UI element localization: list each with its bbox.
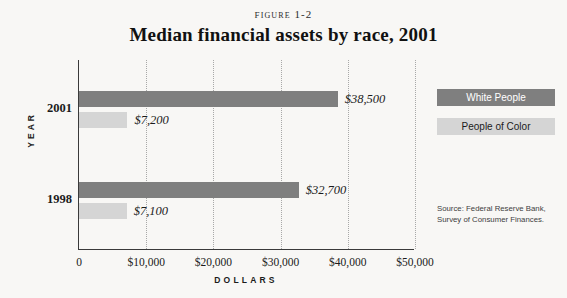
x-axis-tick-label: 0 (76, 256, 82, 268)
legend: White PeoplePeople of Color (437, 89, 555, 147)
gridline (281, 60, 282, 249)
y-axis-title: YEAR (26, 112, 36, 148)
gridline (213, 60, 214, 249)
source-note: Source: Federal Reserve Bank, Survey of … (437, 203, 561, 226)
gridline (348, 60, 349, 249)
gridline (415, 60, 416, 249)
y-axis-tick-label: 1998 (47, 192, 72, 207)
bar (79, 112, 127, 128)
x-axis-tick-label: $10,000 (128, 256, 165, 268)
bar-value-label: $38,500 (338, 91, 386, 107)
bar (79, 91, 338, 107)
bar-value-label: $7,200 (127, 112, 168, 128)
plot-area: $38,500$7,200$32,700$7,100 20011998 0$10… (78, 60, 414, 250)
bar-value-label: $32,700 (299, 182, 347, 198)
legend-item-white-people: White People (437, 89, 555, 106)
bar (79, 203, 127, 219)
x-axis-tick-label: $40,000 (329, 256, 366, 268)
gridline (146, 60, 147, 249)
y-axis-tick-label: 2001 (47, 101, 72, 116)
x-axis-tick-label: $30,000 (262, 256, 299, 268)
bar (79, 182, 299, 198)
legend-item-people-of-color: People of Color (437, 118, 555, 135)
chart-title: Median financial assets by race, 2001 (0, 24, 567, 46)
x-axis-tick-label: $20,000 (195, 256, 232, 268)
figure-container: Figure 1-2 Median financial assets by ra… (0, 0, 567, 298)
x-axis-title: DOLLARS (78, 275, 414, 285)
x-axis-tick-label: $50,000 (396, 256, 433, 268)
bar-value-label: $7,100 (127, 203, 168, 219)
figure-number: Figure 1-2 (0, 6, 567, 22)
